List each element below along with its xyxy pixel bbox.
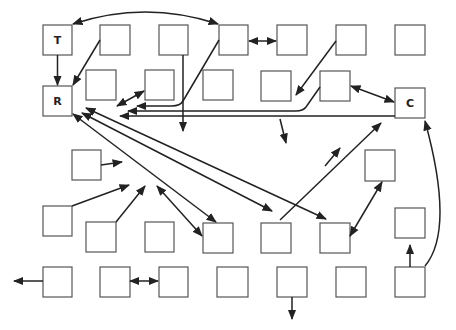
edge-r5c7-C — [425, 121, 440, 266]
edge-r3c2-r4c6 — [350, 182, 382, 236]
node-r4c1 — [43, 206, 72, 236]
node-r2c4 — [203, 70, 233, 100]
node-r2c6 — [320, 71, 350, 101]
node-r1c7 — [395, 25, 425, 55]
node-r1c6 — [336, 25, 366, 55]
node-r4c5 — [261, 223, 291, 253]
node-r1c5 — [277, 25, 307, 55]
node-T-label: T — [54, 34, 62, 47]
edge-r4c1-out — [72, 185, 129, 206]
node-r2c3 — [145, 70, 174, 100]
node-r3c1 — [72, 150, 101, 180]
node-T: T — [43, 25, 72, 55]
node-C-label: C — [406, 97, 414, 110]
node-R: R — [43, 86, 72, 116]
edge-r3c1-out — [101, 162, 122, 165]
edge-r2c3-bidir — [117, 91, 144, 106]
node-r2c2 — [86, 70, 116, 100]
node-r5c6 — [336, 267, 366, 297]
node-r4c6 — [320, 223, 350, 253]
edge-R-r4c6 — [86, 108, 326, 219]
node-r1c3 — [159, 25, 188, 55]
node-r5c7 — [395, 267, 425, 297]
node-r5c3 — [159, 267, 188, 297]
edge-toward-r3c2 — [325, 148, 340, 166]
node-r5c4 — [217, 267, 248, 297]
node-r4c2 — [86, 222, 116, 252]
node-r4c3 — [145, 222, 174, 252]
node-r5c1 — [43, 267, 72, 297]
node-r5c5 — [277, 267, 307, 297]
node-r2c5 — [261, 71, 291, 101]
edge-midline-down — [280, 119, 286, 143]
node-r5c2 — [100, 267, 130, 297]
edge-r2c6-C — [351, 86, 394, 102]
node-r1c4 — [219, 25, 248, 55]
node-r4c7 — [395, 208, 425, 238]
network-diagram: T R C — [0, 0, 456, 330]
node-r3c2 — [365, 150, 395, 181]
node-r1c2 — [100, 25, 130, 55]
edge-r4c2-out — [116, 186, 145, 222]
node-r4c4 — [203, 223, 233, 253]
node-C: C — [395, 88, 425, 118]
edge-T-r1c4 — [73, 12, 218, 24]
node-R-label: R — [53, 95, 62, 108]
edge-R-r4c5 — [82, 113, 272, 211]
